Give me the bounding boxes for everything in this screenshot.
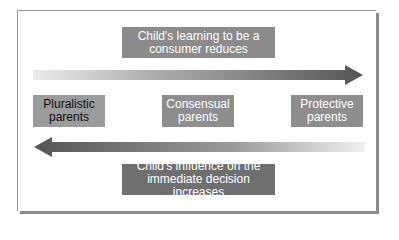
consensual-line2: parents	[166, 111, 229, 124]
consensual-parents-box: Consensual parents	[162, 95, 234, 127]
left-arrow-icon	[33, 136, 365, 158]
protective-line2: parents	[300, 111, 353, 124]
bottom-label-line2: immediate decision increases	[126, 173, 271, 199]
protective-parents-box: Protective parents	[291, 95, 363, 127]
top-label-line1: Child's learning to be a	[138, 30, 260, 43]
top-label-line2: consumer reduces	[138, 43, 260, 56]
pluralistic-line2: parents	[43, 111, 94, 124]
right-arrow-icon	[33, 64, 365, 86]
top-label-learning-reduces: Child's learning to be a consumer reduce…	[122, 27, 275, 58]
bottom-label-influence-increases: Child's influence on the immediate decis…	[122, 164, 275, 195]
pluralistic-parents-box: Pluralistic parents	[33, 95, 105, 127]
